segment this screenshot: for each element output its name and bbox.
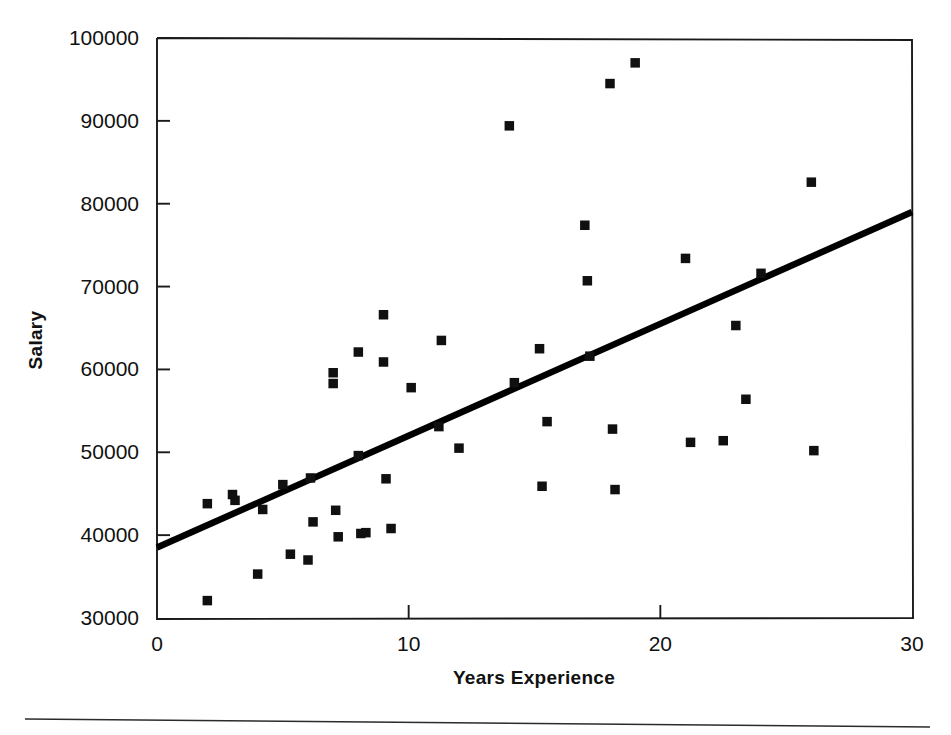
data-point <box>331 506 341 516</box>
data-point <box>434 422 444 432</box>
data-point <box>386 524 396 534</box>
data-point <box>719 436 729 446</box>
data-point <box>379 310 389 320</box>
data-point <box>580 221 590 231</box>
y-axis-title: Salary <box>25 310 46 369</box>
data-point <box>583 276 593 286</box>
data-point <box>731 321 741 331</box>
y-tick-label: 60000 <box>81 357 139 380</box>
data-point <box>686 438 696 448</box>
data-point <box>381 474 391 484</box>
data-point <box>741 395 751 405</box>
regression-line <box>157 212 912 548</box>
data-point <box>807 177 817 187</box>
figure-container: 3000040000500006000070000800009000010000… <box>0 0 951 735</box>
data-point <box>454 443 464 453</box>
data-points-group <box>203 58 819 605</box>
data-point <box>535 344 545 354</box>
x-axis-tick-labels: 0102030 <box>151 632 924 655</box>
data-point <box>354 347 364 357</box>
x-axis-ticks <box>409 605 661 618</box>
x-axis-title: Years Experience <box>453 667 615 688</box>
data-point <box>203 596 213 606</box>
data-point <box>681 254 691 264</box>
y-tick-label: 100000 <box>69 26 139 49</box>
data-point <box>605 79 615 89</box>
y-tick-label: 40000 <box>81 523 139 546</box>
x-tick-label: 10 <box>397 632 420 655</box>
data-point <box>608 424 618 434</box>
regression-line-group <box>157 212 912 548</box>
data-point <box>306 473 316 483</box>
data-point <box>303 555 313 565</box>
data-point <box>203 499 213 509</box>
x-tick-label: 20 <box>649 632 672 655</box>
data-point <box>585 351 595 361</box>
data-point <box>505 121 515 131</box>
data-point <box>809 446 819 456</box>
data-point <box>286 549 296 559</box>
data-point <box>328 368 338 378</box>
data-point <box>278 480 288 490</box>
data-point <box>361 528 371 538</box>
data-point <box>406 383 416 393</box>
data-point <box>354 451 364 461</box>
data-point <box>610 485 620 495</box>
data-point <box>333 532 343 542</box>
data-point <box>230 496 240 506</box>
data-point <box>542 417 552 427</box>
x-tick-label: 0 <box>151 632 163 655</box>
data-point <box>379 357 389 367</box>
scatter-chart: 3000040000500006000070000800009000010000… <box>0 0 951 735</box>
data-point <box>328 379 338 389</box>
data-point <box>537 482 547 492</box>
x-tick-label: 30 <box>900 632 923 655</box>
bottom-rule <box>25 719 930 727</box>
axes-frame <box>157 38 913 619</box>
y-tick-label: 30000 <box>81 606 139 629</box>
y-tick-label: 80000 <box>81 192 139 215</box>
plot-frame <box>157 38 913 619</box>
data-point <box>258 505 268 515</box>
data-point <box>510 378 520 388</box>
data-point <box>437 336 447 346</box>
y-tick-label: 50000 <box>81 440 139 463</box>
data-point <box>308 517 318 527</box>
y-axis-tick-labels: 3000040000500006000070000800009000010000… <box>69 26 139 629</box>
data-point <box>630 58 640 68</box>
y-tick-label: 70000 <box>81 275 139 298</box>
y-tick-label: 90000 <box>81 109 139 132</box>
y-axis-ticks <box>157 121 170 535</box>
data-point <box>756 269 766 279</box>
data-point <box>253 569 263 579</box>
